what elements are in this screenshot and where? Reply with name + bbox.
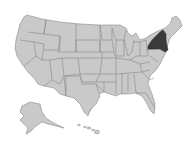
state-hawaii[interactable] bbox=[78, 124, 100, 134]
us-map bbox=[0, 0, 195, 149]
us-map-svg bbox=[0, 0, 195, 149]
state-alaska[interactable] bbox=[20, 102, 64, 134]
